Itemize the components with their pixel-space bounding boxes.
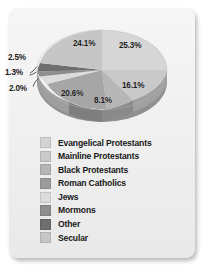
pie-label-mainline: 16.1%	[122, 81, 144, 90]
legend-label: Secular	[58, 234, 88, 243]
pie-label-mormons: 1.3%	[5, 68, 23, 77]
pie-label-evangelical: 25.3%	[119, 41, 141, 50]
pie-slice-evangelical	[102, 30, 167, 70]
pie-label-secular: 24.1%	[73, 39, 95, 48]
pie-chart: 25.3% 16.1% 8.1% 20.6% 24.1% 2.5% 1.3% 2…	[9, 8, 195, 130]
legend-label: Other	[58, 220, 80, 229]
legend-swatch-icon	[40, 178, 51, 189]
pie-chart-svg	[9, 8, 195, 130]
legend-swatch-icon	[40, 137, 51, 148]
legend-item-mainline-protestants: Mainline Protestants	[40, 150, 190, 164]
pie-label-black-protestants: 8.1%	[94, 96, 112, 105]
legend-swatch-icon	[40, 151, 51, 162]
legend-swatch-icon	[40, 192, 51, 203]
legend-swatch-icon	[40, 232, 51, 243]
legend-label: Mormons	[58, 206, 96, 215]
legend-item-mormons: Mormons	[40, 204, 190, 218]
legend-item-secular: Secular	[40, 231, 190, 245]
chart-screenshot: 25.3% 16.1% 8.1% 20.6% 24.1% 2.5% 1.3% 2…	[0, 0, 207, 272]
legend-item-jews: Jews	[40, 190, 190, 204]
legend-item-other: Other	[40, 218, 190, 232]
chart-card: 25.3% 16.1% 8.1% 20.6% 24.1% 2.5% 1.3% 2…	[9, 8, 195, 258]
legend-label: Evangelical Protestants	[58, 139, 152, 148]
legend-label: Black Protestants	[58, 166, 128, 175]
legend-item-evangelical-protestants: Evangelical Protestants	[40, 136, 190, 150]
pie-label-jews: 2.0%	[9, 84, 27, 93]
legend-swatch-icon	[40, 164, 51, 175]
legend-swatch-icon	[40, 219, 51, 230]
legend-item-roman-catholics: Roman Catholics	[40, 177, 190, 191]
legend-swatch-icon	[40, 205, 51, 216]
pie-label-roman-catholics: 20.6%	[61, 89, 83, 98]
pie-label-other: 2.5%	[8, 53, 26, 62]
legend-label: Jews	[58, 193, 78, 202]
chart-legend: Evangelical Protestants Mainline Protest…	[40, 136, 190, 245]
legend-item-black-protestants: Black Protestants	[40, 163, 190, 177]
legend-label: Roman Catholics	[58, 179, 126, 188]
pie-slice-secular	[40, 30, 102, 70]
legend-label: Mainline Protestants	[58, 152, 139, 161]
